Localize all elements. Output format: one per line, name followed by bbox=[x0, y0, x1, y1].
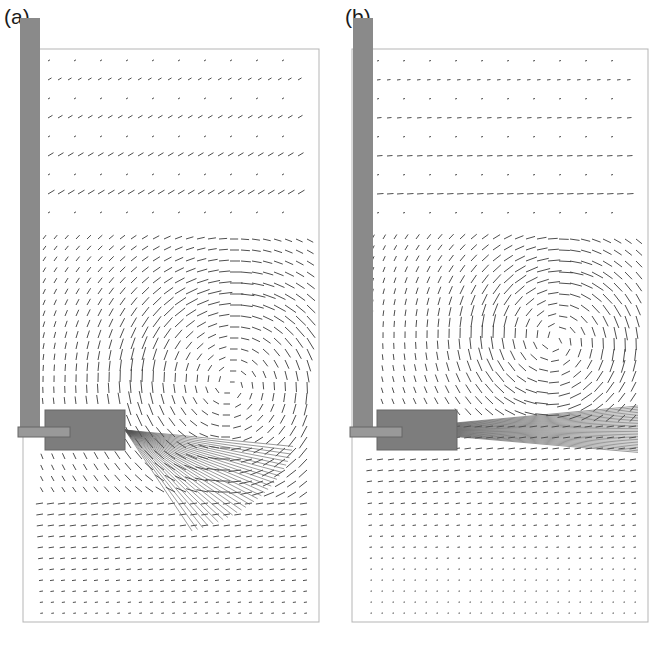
nozzle-inlet-icon bbox=[350, 427, 402, 437]
jet-stream bbox=[457, 406, 638, 452]
nozzle-inlet-icon bbox=[18, 427, 70, 437]
electrode-icon bbox=[353, 18, 373, 428]
velocity-arrows bbox=[366, 61, 642, 614]
vector-field-figure bbox=[0, 0, 671, 647]
velocity-arrows bbox=[36, 60, 315, 614]
electrode-icon bbox=[20, 18, 40, 428]
panel-b bbox=[350, 18, 648, 622]
jet-stream bbox=[125, 430, 293, 531]
panel-a bbox=[18, 18, 319, 622]
